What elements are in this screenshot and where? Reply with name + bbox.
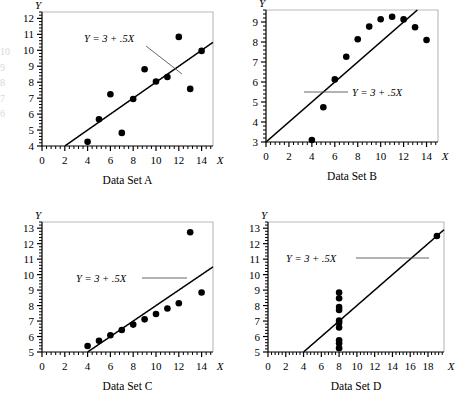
svg-text:14: 14 [196,360,208,372]
svg-text:Data Set A: Data Set A [103,174,154,186]
svg-text:5: 5 [255,346,261,358]
panel-data-set-b: 345678902468101214YXY = 3 + .5XData Set … [230,0,461,200]
svg-text:Y: Y [261,209,269,221]
svg-text:12: 12 [249,238,260,250]
svg-text:8: 8 [29,76,35,88]
svg-text:11: 11 [23,28,34,40]
svg-text:4: 4 [253,116,259,128]
svg-text:8: 8 [255,300,261,312]
panel-data-set-a: 45678910111202468101214YXY = 3 + .5XData… [0,0,230,200]
panel-data-set-c: 567891011121302468101214YXY = 3 + .5XDat… [0,200,230,401]
svg-text:6: 6 [29,331,35,343]
svg-text:2: 2 [286,150,292,162]
scatter-plot-c: 567891011121302468101214YXY = 3 + .5XDat… [0,200,230,401]
svg-text:13: 13 [249,222,261,234]
svg-text:14: 14 [196,154,208,166]
svg-text:10: 10 [351,360,363,372]
svg-text:10: 10 [23,269,35,281]
svg-text:Data Set B: Data Set B [327,170,377,182]
svg-text:0: 0 [39,360,45,372]
svg-text:8: 8 [29,300,35,312]
panel-data-set-d: 5678910111213024681012141618YXY = 3 + .5… [230,200,461,401]
svg-text:6: 6 [319,360,325,372]
svg-text:4: 4 [301,360,307,372]
svg-text:10: 10 [151,360,163,372]
svg-text:Y = 3 + .5X: Y = 3 + .5X [76,273,127,284]
svg-text:X: X [447,360,456,372]
svg-text:8: 8 [130,154,136,166]
scatter-plot-d: 5678910111213024681012141618YXY = 3 + .5… [230,200,461,401]
svg-text:6: 6 [253,76,259,88]
svg-text:X: X [216,360,225,372]
svg-text:8: 8 [130,360,136,372]
svg-text:9: 9 [29,60,35,72]
svg-text:11: 11 [249,253,260,265]
svg-text:6: 6 [255,331,261,343]
svg-text:12: 12 [398,150,409,162]
anscombe-quartet-figure: 45678910111202468101214YXY = 3 + .5XData… [0,0,461,401]
svg-text:12: 12 [173,360,184,372]
svg-text:Data Set D: Data Set D [331,380,381,392]
svg-text:8: 8 [336,360,342,372]
svg-text:5: 5 [29,346,35,358]
svg-text:18: 18 [423,360,435,372]
scatter-plot-b: 345678902468101214YXY = 3 + .5XData Set … [230,0,461,200]
svg-text:4: 4 [29,140,35,152]
svg-text:2: 2 [62,154,68,166]
svg-text:10: 10 [151,154,163,166]
svg-text:Y: Y [35,0,43,11]
svg-text:7: 7 [29,92,35,104]
svg-text:12: 12 [23,238,34,250]
svg-text:7: 7 [29,315,35,327]
svg-text:12: 12 [23,12,34,24]
svg-text:7: 7 [255,315,261,327]
svg-text:4: 4 [85,154,91,166]
svg-text:10: 10 [23,44,35,56]
svg-text:5: 5 [29,124,35,136]
svg-text:6: 6 [108,360,114,372]
svg-text:12: 12 [369,360,380,372]
svg-text:10: 10 [375,150,387,162]
svg-text:11: 11 [23,253,34,265]
svg-text:9: 9 [255,284,261,296]
svg-text:7: 7 [253,56,259,68]
svg-text:14: 14 [387,360,399,372]
svg-text:6: 6 [332,150,338,162]
svg-text:Y = 3 + .5X: Y = 3 + .5X [84,33,135,44]
svg-text:12: 12 [173,154,184,166]
svg-text:0: 0 [39,154,45,166]
svg-text:16: 16 [405,360,417,372]
svg-text:10: 10 [249,269,261,281]
svg-text:8: 8 [253,36,259,48]
svg-text:Y: Y [35,209,43,221]
svg-text:4: 4 [85,360,91,372]
svg-text:3: 3 [253,136,259,148]
svg-text:2: 2 [283,360,289,372]
svg-text:5: 5 [253,96,259,108]
svg-text:0: 0 [265,360,271,372]
svg-text:Y = 3 + .5X: Y = 3 + .5X [286,253,337,264]
svg-text:6: 6 [108,154,114,166]
scatter-plot-a: 45678910111202468101214YXY = 3 + .5XData… [0,0,230,200]
svg-text:6: 6 [29,108,35,120]
svg-text:8: 8 [355,150,361,162]
svg-text:14: 14 [421,150,433,162]
svg-text:Y = 3 + .5X: Y = 3 + .5X [352,87,403,98]
svg-text:9: 9 [253,16,259,28]
svg-text:X: X [216,154,225,166]
svg-text:X: X [441,150,450,162]
svg-text:4: 4 [309,150,315,162]
svg-text:13: 13 [23,222,35,234]
svg-text:Y: Y [259,0,267,9]
svg-text:Data Set C: Data Set C [103,380,153,392]
svg-text:9: 9 [29,284,35,296]
svg-text:2: 2 [62,360,68,372]
svg-text:0: 0 [263,150,269,162]
